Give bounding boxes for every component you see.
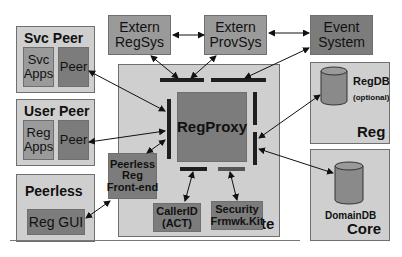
regproxy-box: RegProxy bbox=[177, 92, 247, 162]
extern-provsys-label: Extern ProvSys bbox=[209, 20, 261, 49]
security-framework-box: Security Frmwk.Kit bbox=[211, 201, 263, 230]
security-framework-label: Security Frmwk.Kit bbox=[210, 204, 263, 227]
reg-gui-label: Reg GUI bbox=[29, 215, 83, 230]
user-peer-group: User Peer Reg Apps Peer bbox=[16, 99, 95, 166]
reg-title: Reg bbox=[357, 123, 385, 140]
extern-provsys-box: Extern ProvSys bbox=[204, 15, 267, 55]
reg-apps-box: Reg Apps bbox=[23, 120, 54, 160]
event-system-label: Event System bbox=[318, 20, 365, 49]
divider-line bbox=[10, 240, 300, 241]
callerid-label: CallerID (ACT) bbox=[156, 206, 198, 229]
svc-peer-label: Peer bbox=[60, 60, 87, 74]
peerless-frontend-label: Peerless Reg Front-end bbox=[107, 159, 158, 194]
svc-peer-title: Svc Peer bbox=[24, 30, 83, 46]
interface-bar-left bbox=[167, 99, 171, 159]
user-peer-title: User Peer bbox=[24, 103, 89, 119]
svc-apps-label: Svc Apps bbox=[24, 53, 54, 80]
extern-regsys-label: Extern RegSys bbox=[115, 20, 164, 49]
user-peer-box: Peer bbox=[58, 120, 89, 160]
interface-bar-right-lower bbox=[253, 132, 257, 165]
core-title: Core bbox=[347, 220, 381, 237]
svc-peer-box: Peer bbox=[58, 47, 89, 87]
interface-bar-top-right bbox=[211, 78, 266, 82]
extern-regsys-box: Extern RegSys bbox=[108, 15, 171, 55]
interface-bar-top-left bbox=[160, 78, 204, 82]
interface-bar-bottom-right bbox=[218, 167, 245, 171]
user-peer-label: Peer bbox=[60, 133, 87, 147]
regdb-note: (optional) bbox=[353, 93, 389, 102]
svc-peer-group: Svc Peer Svc Apps Peer bbox=[16, 26, 95, 93]
interface-bar-bottom-left bbox=[180, 167, 207, 171]
peerless-group: Peerless Reg GUI bbox=[16, 174, 95, 242]
regdb-label: RegDB bbox=[353, 75, 390, 87]
regproxy-label: RegProxy bbox=[177, 119, 247, 135]
peerless-frontend-box: Peerless Reg Front-end bbox=[108, 153, 157, 199]
reg-gui-box: Reg GUI bbox=[27, 209, 85, 235]
reg-apps-label: Reg Apps bbox=[24, 126, 54, 153]
interface-bar-right-upper bbox=[253, 92, 257, 125]
core-group: DomainDB Core bbox=[310, 149, 390, 241]
svc-apps-box: Svc Apps bbox=[23, 47, 54, 87]
reg-group: Reg RegDB (optional) bbox=[310, 62, 390, 144]
peerless-title: Peerless bbox=[25, 183, 83, 199]
event-system-box: Event System bbox=[310, 15, 373, 55]
callerid-box: CallerID (ACT) bbox=[153, 203, 201, 232]
